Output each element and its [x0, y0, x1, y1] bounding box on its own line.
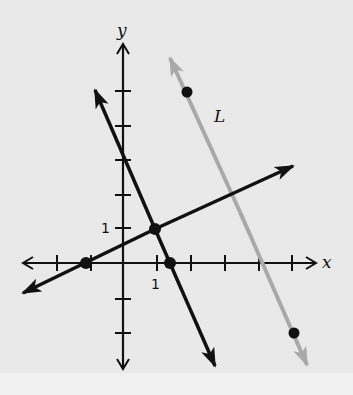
point-L-2-5 — [182, 87, 193, 98]
y-axis-label: y — [116, 20, 127, 40]
coordinate-plane: y x 1 1 L — [0, 0, 353, 395]
x-axis-label: x — [322, 252, 332, 272]
point-L-5-neg2 — [289, 328, 300, 339]
y-axis — [115, 45, 131, 368]
point-intersection-1-1 — [149, 223, 161, 235]
y-tick-label-1: 1 — [101, 220, 110, 236]
point-x-intercept-neg1 — [80, 257, 92, 269]
line-L-label: L — [213, 106, 225, 126]
point-x-intercept-steep — [164, 257, 176, 269]
x-tick-label-1: 1 — [151, 276, 160, 292]
